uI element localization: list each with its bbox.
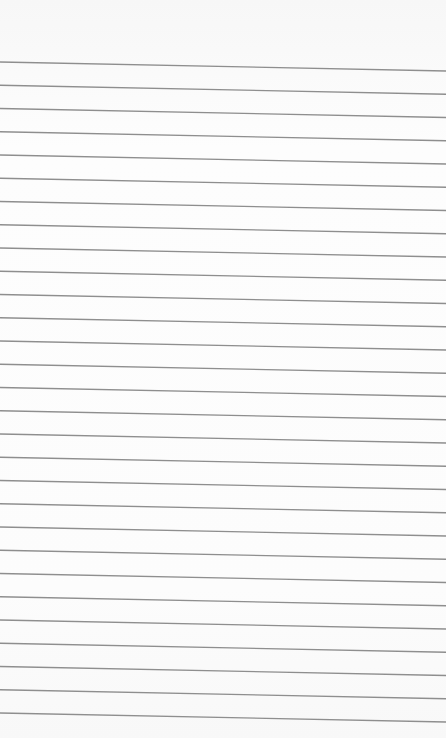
ruled-line (0, 85, 446, 94)
ruled-line (0, 248, 446, 257)
ruled-line (0, 713, 446, 722)
ruled-line (0, 527, 446, 536)
ruled-line (0, 411, 446, 420)
ruled-line (0, 364, 446, 373)
ruled-line (0, 295, 446, 304)
ruled-line (0, 341, 446, 350)
ruled-line (0, 132, 446, 141)
ruled-line (0, 574, 446, 583)
ruled-line (0, 597, 446, 606)
ruled-line (0, 667, 446, 676)
ruled-line (0, 643, 446, 652)
ruled-line (0, 225, 446, 234)
ruled-line (0, 481, 446, 490)
ruled-line (0, 620, 446, 629)
ruled-line (0, 550, 446, 559)
lined-paper (0, 0, 446, 738)
ruled-line (0, 318, 446, 327)
ruled-line (0, 109, 446, 118)
ruled-line (0, 178, 446, 187)
ruled-line (0, 271, 446, 280)
ruled-line (0, 155, 446, 164)
ruled-line (0, 62, 446, 71)
ruled-lines (0, 0, 446, 738)
ruled-line (0, 504, 446, 513)
ruled-line (0, 388, 446, 397)
ruled-line (0, 434, 446, 443)
ruled-line (0, 690, 446, 699)
ruled-line (0, 202, 446, 211)
ruled-line (0, 457, 446, 466)
